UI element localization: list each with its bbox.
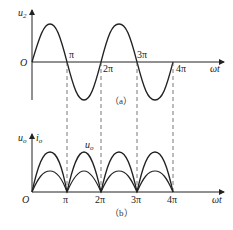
b-y-label-right: io [36,132,43,145]
a-origin-label: O [20,57,27,68]
a-tick-pi: π [69,49,74,60]
b-origin-label: O [22,194,29,205]
b-caption: （b） [110,208,133,218]
a-x-label: ωt [210,63,220,74]
a-tick-4pi: 4π [176,63,186,74]
figure-a: u2 O π 2π 3π 4π ωt （a） [18,7,224,106]
b-tick-3pi: 3π [131,194,141,205]
figure-b: uo io uo O π 2π 3π 4π ωt （b） [18,132,224,218]
rectifier-waveform-diagram: u2 O π 2π 3π 4π ωt （a） uo io uo O π 2π 3… [0,0,233,230]
a-caption: （a） [110,96,132,106]
b-tick-2pi: 2π [95,194,105,205]
b-y-label-left: uo [18,132,27,145]
a-y-label: u2 [18,7,27,20]
b-curve-label: uo [85,139,94,152]
a-tick-3pi: 3π [137,49,147,60]
b-x-label: ωt [212,194,222,205]
dashed-guides [67,62,173,192]
a-tick-2pi: 2π [103,63,113,74]
b-tick-4pi: 4π [167,194,177,205]
b-io-curve [32,171,173,192]
b-tick-pi: π [63,194,68,205]
